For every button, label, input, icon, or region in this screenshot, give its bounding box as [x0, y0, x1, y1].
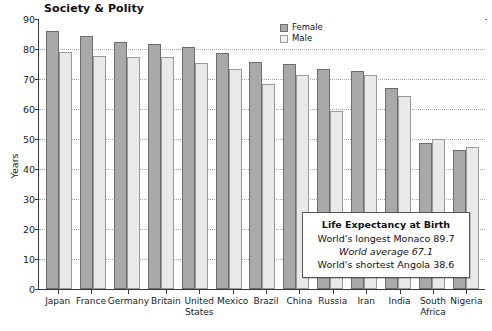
- bar-female: [80, 36, 93, 289]
- annotation-line-shortest: World's shortest Angola 38.6: [309, 258, 463, 271]
- x-tick-mark: [433, 290, 434, 294]
- x-tick-mark: [58, 290, 59, 294]
- x-tick-mark: [199, 290, 200, 294]
- y-tick-label: 60: [23, 104, 35, 115]
- legend-label-male: Male: [292, 33, 312, 44]
- bar-female: [148, 44, 161, 289]
- bar-female: [182, 47, 195, 289]
- x-tick-label: Iran: [350, 290, 383, 330]
- bar-group: [110, 19, 144, 289]
- x-tick-label: Nigeria: [450, 290, 483, 330]
- x-tick-label: South Africa: [416, 290, 449, 330]
- x-tick-mark: [366, 290, 367, 294]
- x-axis: JapanFranceGermanyBritainUnited StatesMe…: [38, 290, 485, 330]
- bar-group: [144, 19, 178, 289]
- x-tick-label: United States: [183, 290, 216, 330]
- bar-male: [229, 69, 242, 289]
- x-tick-mark: [266, 290, 267, 294]
- bar-male: [195, 63, 208, 290]
- bar-male: [93, 56, 106, 289]
- bar-group: [178, 19, 212, 289]
- bar-group: [42, 19, 76, 289]
- x-tick-mark: [400, 290, 401, 294]
- x-tick-label: Mexico: [216, 290, 249, 330]
- x-tick-mark: [466, 290, 467, 294]
- y-tick-label: 50: [23, 134, 35, 145]
- annotation-heading: Life Expectancy at Birth: [309, 218, 463, 231]
- y-tick-label: 70: [23, 74, 35, 85]
- bar-group: [212, 19, 246, 289]
- bar-male: [127, 57, 140, 290]
- x-tick-label: France: [74, 290, 107, 330]
- x-tick-mark: [299, 290, 300, 294]
- legend-item-male: Male: [280, 33, 323, 44]
- bar-group: [246, 19, 280, 289]
- legend-swatch-male-icon: [280, 35, 288, 43]
- y-tick-label: 10: [23, 254, 35, 265]
- bar-group: [76, 19, 110, 289]
- legend-label-female: Female: [292, 22, 323, 33]
- bar-female: [46, 31, 59, 289]
- annotation-box: Life Expectancy at Birth World's longest…: [302, 212, 470, 278]
- bar-female: [216, 53, 229, 289]
- bar-female: [283, 64, 296, 289]
- annotation-line-longest: World's longest Monaco 89.7: [309, 232, 463, 245]
- x-tick-mark: [128, 290, 129, 294]
- y-axis-label: Years: [9, 153, 20, 178]
- legend-swatch-female-icon: [280, 24, 288, 32]
- x-tick-mark: [91, 290, 92, 294]
- bar-male: [59, 52, 72, 289]
- annotation-line-average: World average 67.1: [309, 245, 463, 258]
- y-tick-label: 90: [23, 14, 35, 25]
- y-tick-label: 30: [23, 194, 35, 205]
- y-tick-label: 40: [23, 164, 35, 175]
- x-tick-label: Britain: [149, 290, 182, 330]
- x-tick-label: Russia: [316, 290, 349, 330]
- x-tick-mark: [233, 290, 234, 294]
- life-expectancy-chart: Society & Polity 0102030405060708090 Yea…: [0, 0, 492, 331]
- y-tick-label: 20: [23, 224, 35, 235]
- y-tick-label: 0: [29, 284, 35, 295]
- x-tick-label: Brazil: [249, 290, 282, 330]
- x-tick-mark: [166, 290, 167, 294]
- x-tick-mark: [333, 290, 334, 294]
- page-title: Society & Polity: [44, 2, 144, 15]
- x-tick-label: Germany: [108, 290, 149, 330]
- y-tick-label: 80: [23, 44, 35, 55]
- bar-male: [262, 84, 275, 289]
- x-tick-label: India: [383, 290, 416, 330]
- bar-male: [161, 57, 174, 289]
- legend: Female Male: [276, 19, 328, 47]
- x-tick-label: Japan: [41, 290, 74, 330]
- bar-female: [114, 42, 127, 290]
- x-tick-label: China: [283, 290, 316, 330]
- legend-item-female: Female: [280, 22, 323, 33]
- bar-female: [249, 62, 262, 289]
